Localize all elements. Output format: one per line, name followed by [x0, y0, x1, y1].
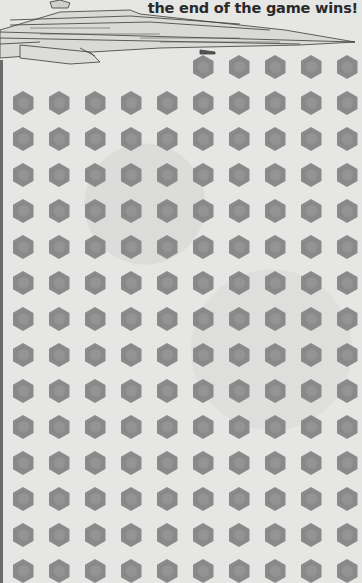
- hexagon-icon[interactable]: [85, 487, 106, 511]
- hexagon-icon[interactable]: [265, 199, 286, 223]
- hexagon-icon[interactable]: [265, 415, 286, 439]
- hexagon-icon[interactable]: [337, 199, 358, 223]
- hexagon-icon[interactable]: [157, 343, 178, 367]
- hexagon-icon[interactable]: [337, 235, 358, 259]
- hexagon-icon[interactable]: [229, 235, 250, 259]
- hexagon-icon[interactable]: [193, 163, 214, 187]
- hexagon-icon[interactable]: [301, 415, 322, 439]
- hexagon-icon[interactable]: [157, 559, 178, 583]
- hexagon-icon[interactable]: [121, 235, 142, 259]
- hexagon-icon[interactable]: [337, 91, 358, 115]
- hexagon-icon[interactable]: [49, 343, 70, 367]
- hexagon-icon[interactable]: [13, 559, 34, 583]
- hexagon-icon[interactable]: [229, 163, 250, 187]
- hexagon-icon[interactable]: [13, 451, 34, 475]
- hexagon-icon[interactable]: [337, 307, 358, 331]
- hexagon-icon[interactable]: [265, 127, 286, 151]
- hexagon-icon[interactable]: [49, 127, 70, 151]
- hexagon-icon[interactable]: [13, 271, 34, 295]
- hexagon-icon[interactable]: [13, 379, 34, 403]
- hexagon-icon[interactable]: [85, 307, 106, 331]
- hexagon-icon[interactable]: [13, 91, 34, 115]
- hexagon-icon[interactable]: [157, 523, 178, 547]
- hexagon-icon[interactable]: [337, 523, 358, 547]
- hexagon-icon[interactable]: [85, 235, 106, 259]
- hexagon-icon[interactable]: [265, 307, 286, 331]
- hexagon-icon[interactable]: [193, 559, 214, 583]
- hexagon-icon[interactable]: [265, 235, 286, 259]
- hexagon-icon[interactable]: [337, 451, 358, 475]
- hexagon-icon[interactable]: [301, 235, 322, 259]
- hexagon-icon[interactable]: [337, 343, 358, 367]
- hexagon-icon[interactable]: [157, 127, 178, 151]
- hexagon-icon[interactable]: [229, 415, 250, 439]
- hexagon-icon[interactable]: [229, 307, 250, 331]
- hexagon-icon[interactable]: [13, 487, 34, 511]
- hexagon-icon[interactable]: [265, 487, 286, 511]
- hexagon-icon[interactable]: [337, 127, 358, 151]
- hexagon-icon[interactable]: [337, 163, 358, 187]
- hexagon-icon[interactable]: [229, 451, 250, 475]
- hexagon-icon[interactable]: [49, 379, 70, 403]
- hexagon-icon[interactable]: [121, 91, 142, 115]
- hexagon-icon[interactable]: [121, 163, 142, 187]
- hexagon-icon[interactable]: [13, 523, 34, 547]
- hexagon-icon[interactable]: [13, 235, 34, 259]
- hexagon-icon[interactable]: [85, 451, 106, 475]
- hexagon-icon[interactable]: [265, 91, 286, 115]
- hexagon-icon[interactable]: [121, 415, 142, 439]
- hexagon-icon[interactable]: [49, 163, 70, 187]
- hexagon-icon[interactable]: [13, 415, 34, 439]
- hexagon-icon[interactable]: [301, 523, 322, 547]
- hexagon-icon[interactable]: [49, 91, 70, 115]
- hexagon-icon[interactable]: [193, 379, 214, 403]
- hexagon-icon[interactable]: [301, 559, 322, 583]
- hexagon-icon[interactable]: [85, 271, 106, 295]
- hexagon-icon[interactable]: [301, 199, 322, 223]
- hexagon-icon[interactable]: [49, 487, 70, 511]
- hexagon-icon[interactable]: [49, 307, 70, 331]
- hexagon-icon[interactable]: [157, 91, 178, 115]
- hexagon-icon[interactable]: [121, 559, 142, 583]
- hexagon-icon[interactable]: [13, 127, 34, 151]
- hexagon-icon[interactable]: [49, 235, 70, 259]
- hexagon-icon[interactable]: [193, 199, 214, 223]
- hexagon-icon[interactable]: [13, 199, 34, 223]
- hexagon-icon[interactable]: [301, 451, 322, 475]
- hexagon-icon[interactable]: [121, 307, 142, 331]
- hexagon-icon[interactable]: [265, 451, 286, 475]
- hexagon-icon[interactable]: [229, 487, 250, 511]
- hexagon-icon[interactable]: [193, 523, 214, 547]
- hexagon-icon[interactable]: [49, 559, 70, 583]
- hexagon-icon[interactable]: [193, 487, 214, 511]
- hexagon-icon[interactable]: [229, 91, 250, 115]
- hexagon-icon[interactable]: [85, 199, 106, 223]
- hexagon-icon[interactable]: [193, 127, 214, 151]
- hexagon-icon[interactable]: [301, 91, 322, 115]
- hexagon-icon[interactable]: [85, 415, 106, 439]
- hexagon-icon[interactable]: [121, 271, 142, 295]
- hexagon-icon[interactable]: [157, 163, 178, 187]
- hexagon-icon[interactable]: [49, 271, 70, 295]
- hexagon-icon[interactable]: [193, 343, 214, 367]
- hexagon-icon[interactable]: [337, 487, 358, 511]
- hexagon-icon[interactable]: [121, 451, 142, 475]
- hexagon-icon[interactable]: [301, 307, 322, 331]
- hexagon-icon[interactable]: [85, 523, 106, 547]
- hexagon-icon[interactable]: [157, 235, 178, 259]
- hexagon-icon[interactable]: [157, 271, 178, 295]
- hexagon-icon[interactable]: [13, 307, 34, 331]
- hexagon-icon[interactable]: [157, 415, 178, 439]
- hexagon-icon[interactable]: [229, 343, 250, 367]
- hexagon-icon[interactable]: [265, 343, 286, 367]
- hexagon-icon[interactable]: [193, 235, 214, 259]
- hexagon-icon[interactable]: [49, 523, 70, 547]
- hexagon-icon[interactable]: [265, 559, 286, 583]
- hexagon-icon[interactable]: [13, 163, 34, 187]
- hexagon-icon[interactable]: [265, 163, 286, 187]
- hexagon-icon[interactable]: [85, 379, 106, 403]
- hexagon-icon[interactable]: [229, 523, 250, 547]
- hexagon-icon[interactable]: [265, 379, 286, 403]
- hexagon-icon[interactable]: [301, 127, 322, 151]
- hexagon-icon[interactable]: [13, 343, 34, 367]
